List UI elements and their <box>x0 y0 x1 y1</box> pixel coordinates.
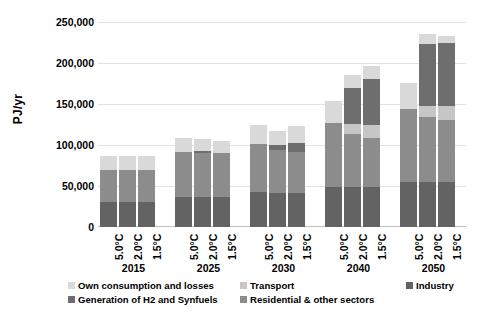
bar-series-container <box>98 22 466 227</box>
bar-segment[interactable] <box>363 79 380 125</box>
x-scenario-label: 2.0°C <box>132 226 144 260</box>
x-scenario-label: 5.0°C <box>338 226 350 260</box>
bar-segment[interactable] <box>438 120 455 182</box>
bar-segment[interactable] <box>250 144 267 192</box>
legend-label: Transport <box>250 280 294 291</box>
bar-segment[interactable] <box>213 141 230 153</box>
bar-segment[interactable] <box>288 193 305 227</box>
legend-label: Residential & other sectors <box>250 294 374 305</box>
x-scenario-label: 1.5°C <box>301 226 313 260</box>
bar-segment[interactable] <box>194 197 211 227</box>
bar-segment[interactable] <box>119 170 136 201</box>
x-scenario-label: 1.5°C <box>226 226 238 260</box>
bar-segment[interactable] <box>325 101 342 123</box>
legend-item[interactable]: Industry <box>406 280 454 291</box>
bar-segment[interactable] <box>119 156 136 171</box>
x-scenario-label: 5.0°C <box>413 226 425 260</box>
chart-legend: Own consumption and lossesTransportIndus… <box>68 280 468 310</box>
legend-label: Industry <box>416 280 454 291</box>
legend-item[interactable]: Own consumption and losses <box>68 280 214 291</box>
bar-segment[interactable] <box>325 187 342 227</box>
x-scenario-label: 2.0°C <box>357 226 369 260</box>
bar-segment[interactable] <box>213 153 230 196</box>
bar-segment[interactable] <box>344 187 361 227</box>
bar-segment[interactable] <box>363 125 380 138</box>
bar-segment[interactable] <box>119 202 136 227</box>
x-group-label: 2025 <box>169 262 249 274</box>
legend-item[interactable]: Transport <box>240 280 294 291</box>
y-tick-label: 100,000 <box>34 139 94 151</box>
bar-segment[interactable] <box>269 150 286 193</box>
bar-segment[interactable] <box>138 202 155 227</box>
bar-segment[interactable] <box>344 75 361 87</box>
legend-item[interactable]: Generation of H2 and Synfuels <box>68 294 218 305</box>
bar-segment[interactable] <box>269 193 286 227</box>
bar-segment[interactable] <box>344 88 361 124</box>
bar-segment[interactable] <box>194 139 211 150</box>
bar-segment[interactable] <box>419 106 436 117</box>
bar-segment[interactable] <box>213 197 230 227</box>
plot-area <box>98 22 466 227</box>
bar-segment[interactable] <box>194 153 211 196</box>
bar-segment[interactable] <box>138 170 155 201</box>
y-tick-label: 50,000 <box>34 180 94 192</box>
x-group-label: 2030 <box>244 262 324 274</box>
legend-item[interactable]: Residential & other sectors <box>240 294 374 305</box>
x-scenario-label: 2.0°C <box>207 226 219 260</box>
bar-segment[interactable] <box>363 138 380 186</box>
bar-segment[interactable] <box>438 43 455 106</box>
bar-segment[interactable] <box>100 202 117 227</box>
legend-swatch-icon <box>240 296 247 303</box>
x-group-label: 2050 <box>394 262 474 274</box>
bar-segment[interactable] <box>269 131 286 145</box>
legend-swatch-icon <box>240 282 247 289</box>
bar-segment[interactable] <box>100 156 117 171</box>
bar-segment[interactable] <box>175 152 192 197</box>
bar-segment[interactable] <box>363 187 380 227</box>
bar-segment[interactable] <box>175 138 192 151</box>
bar-segment[interactable] <box>269 145 286 150</box>
x-scenario-label: 5.0°C <box>113 226 125 260</box>
y-axis-title: PJ/yr <box>11 69 25 149</box>
x-axis-labels: 5.0°C2.0°C1.5°C20155.0°C2.0°C1.5°C20255.… <box>98 228 466 278</box>
x-group-label: 2015 <box>94 262 174 274</box>
bar-segment[interactable] <box>250 125 267 145</box>
y-tick-label: 250,000 <box>34 16 94 28</box>
bar-segment[interactable] <box>400 182 417 227</box>
bar-segment[interactable] <box>363 66 380 79</box>
bar-segment[interactable] <box>288 143 305 152</box>
legend-label: Own consumption and losses <box>78 280 214 291</box>
x-scenario-label: 2.0°C <box>432 226 444 260</box>
y-tick-label: 200,000 <box>34 57 94 69</box>
bar-segment[interactable] <box>419 44 436 106</box>
x-scenario-label: 2.0°C <box>282 226 294 260</box>
x-scenario-label: 5.0°C <box>263 226 275 260</box>
x-scenario-label: 5.0°C <box>188 226 200 260</box>
legend-swatch-icon <box>68 282 75 289</box>
bar-segment[interactable] <box>288 152 305 192</box>
bar-segment[interactable] <box>438 106 455 119</box>
legend-swatch-icon <box>406 282 413 289</box>
x-scenario-label: 1.5°C <box>151 226 163 260</box>
bar-segment[interactable] <box>325 123 342 187</box>
bar-segment[interactable] <box>344 134 361 187</box>
bar-segment[interactable] <box>138 156 155 171</box>
bar-segment[interactable] <box>250 192 267 227</box>
bar-segment[interactable] <box>438 182 455 227</box>
bar-segment[interactable] <box>175 197 192 227</box>
bar-segment[interactable] <box>194 151 211 153</box>
x-group-label: 2040 <box>319 262 399 274</box>
bar-segment[interactable] <box>400 109 417 182</box>
bar-segment[interactable] <box>400 83 417 109</box>
chart-root: PJ/yr 050,000100,000150,000200,000250,00… <box>0 0 482 317</box>
bar-segment[interactable] <box>419 34 436 44</box>
bar-segment[interactable] <box>344 124 361 134</box>
bar-segment[interactable] <box>438 36 455 43</box>
bar-segment[interactable] <box>288 126 305 143</box>
bar-segment[interactable] <box>419 117 436 182</box>
bar-segment[interactable] <box>419 182 436 227</box>
legend-swatch-icon <box>68 296 75 303</box>
x-scenario-label: 1.5°C <box>376 226 388 260</box>
bar-segment[interactable] <box>100 170 117 201</box>
x-scenario-label: 1.5°C <box>451 226 463 260</box>
